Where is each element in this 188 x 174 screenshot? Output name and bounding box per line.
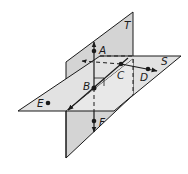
point-b — [92, 86, 97, 91]
intersecting-planes-diagram: T S A B C D E F — [0, 0, 188, 174]
point-a — [92, 49, 97, 54]
label-c: C — [117, 69, 125, 81]
label-b: B — [83, 80, 90, 92]
label-s: S — [161, 55, 168, 67]
point-c — [119, 62, 124, 67]
label-a: A — [98, 44, 106, 56]
diagram-canvas: T S A B C D E F — [0, 0, 188, 174]
point-f — [92, 119, 97, 124]
label-f: F — [99, 116, 106, 128]
label-d: D — [140, 71, 148, 83]
point-e — [46, 101, 51, 106]
label-e: E — [37, 97, 44, 109]
